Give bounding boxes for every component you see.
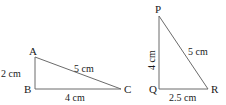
side-label-pr: 5 cm <box>188 46 208 57</box>
triangle-abc: A B C 2 cm 4 cm 5 cm <box>1 45 131 103</box>
side-label-ac: 5 cm <box>74 63 94 74</box>
vertex-label-r: R <box>211 83 219 95</box>
side-label-qr: 2.5 cm <box>169 92 196 103</box>
vertex-label-p: P <box>155 3 161 15</box>
side-label-pq: 4 cm <box>146 50 157 70</box>
vertex-label-q: Q <box>149 83 157 95</box>
vertex-label-c: C <box>124 83 131 95</box>
triangles-figure: A B C 2 cm 4 cm 5 cm P Q R 4 cm 2.5 cm 5… <box>0 0 226 105</box>
vertex-label-a: A <box>29 45 37 57</box>
triangle-pqr: P Q R 4 cm 2.5 cm 5 cm <box>146 3 219 103</box>
vertex-label-b: B <box>24 83 31 95</box>
side-label-ab: 2 cm <box>1 68 21 79</box>
side-label-bc: 4 cm <box>65 92 85 103</box>
diagram-canvas: A B C 2 cm 4 cm 5 cm P Q R 4 cm 2.5 cm 5… <box>0 0 226 105</box>
